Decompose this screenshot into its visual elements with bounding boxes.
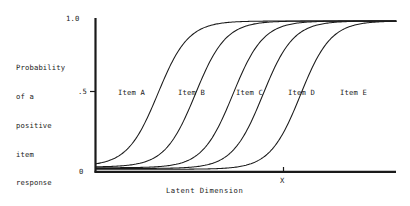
y-axis-tick-label-zero: 0: [79, 167, 83, 177]
item-characteristic-curve-figure: Probability of a positive item response …: [0, 0, 410, 206]
y-axis-title: Probability of a positive item response: [16, 44, 65, 206]
y-axis-title-line-4: item: [16, 150, 65, 160]
curve-label-item-b: Item B: [178, 88, 205, 98]
curve-label-item-e: Item E: [340, 88, 367, 98]
curve-label-item-a: Item A: [118, 88, 145, 98]
y-axis-title-line-3: positive: [16, 121, 65, 131]
y-axis-title-line-2: of a: [16, 92, 65, 102]
curve-label-item-c: Item C: [236, 88, 263, 98]
y-axis-title-line-5: response: [16, 178, 65, 188]
y-axis-tick-label-half: .5: [78, 87, 87, 97]
x-axis-title: Latent Dimension: [166, 186, 243, 196]
curve-label-item-d: Item D: [288, 88, 315, 98]
y-axis-title-line-1: Probability: [16, 63, 65, 73]
y-axis-tick-label-1: 1.0: [66, 14, 79, 24]
x-axis-tick-label-x: X: [280, 176, 284, 186]
